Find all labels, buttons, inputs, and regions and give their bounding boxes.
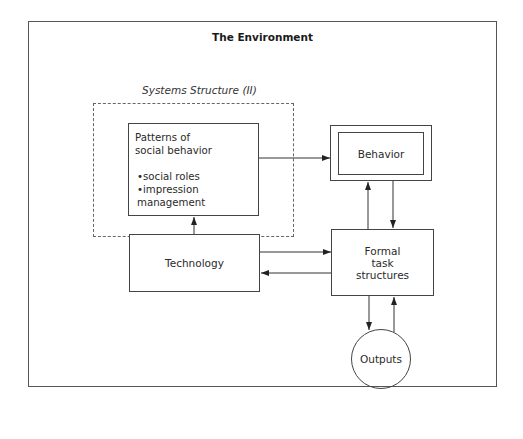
connector-arrows (0, 0, 523, 439)
